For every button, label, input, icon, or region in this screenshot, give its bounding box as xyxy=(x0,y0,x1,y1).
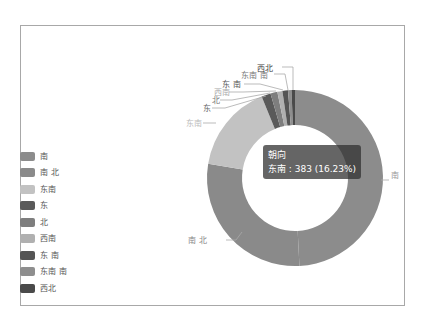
donut-slice[interactable] xyxy=(207,164,299,266)
legend-label: 东 xyxy=(40,201,48,210)
legend-swatch xyxy=(20,152,35,161)
legend-swatch xyxy=(20,201,35,210)
legend-swatch xyxy=(20,284,35,293)
tooltip-title: 朝向 xyxy=(268,148,356,162)
legend-item-southwest[interactable]: 西南 xyxy=(20,231,67,248)
slice-label: 东 xyxy=(203,103,211,113)
legend-label: 西南 xyxy=(40,234,56,243)
legend-item-north[interactable]: 北 xyxy=(20,214,67,231)
slice-label: 东南 xyxy=(186,118,202,128)
legend-item-south[interactable]: 南 xyxy=(20,148,67,165)
legend-swatch xyxy=(20,234,35,243)
legend-item-east[interactable]: 东 xyxy=(20,198,67,215)
legend-label: 南 xyxy=(40,152,48,161)
label-leader-line xyxy=(244,84,283,90)
legend-item-south-north[interactable]: 南 北 xyxy=(20,165,67,182)
legend-label: 西北 xyxy=(40,284,56,293)
legend-swatch xyxy=(20,218,35,227)
slice-label: 西北 xyxy=(257,64,273,73)
legend-swatch xyxy=(20,168,35,177)
legend-item-southeast-south[interactable]: 东南 南 xyxy=(20,264,67,281)
slice-label: 东 南 xyxy=(222,79,241,89)
legend-label: 北 xyxy=(40,218,48,227)
slice-label: 北 xyxy=(212,96,220,105)
label-leader-line xyxy=(274,74,288,90)
legend-label: 南 北 xyxy=(40,168,59,177)
legend-label: 东南 xyxy=(40,185,56,194)
slice-label: 南 xyxy=(391,170,399,180)
legend: 南 南 北 东南 东 北 西南 东 南 东南 南 西北 xyxy=(20,148,67,297)
legend-swatch xyxy=(20,251,35,260)
tooltip: 朝向 东南 : 383 (16.23%) xyxy=(263,145,361,179)
legend-swatch xyxy=(20,267,35,276)
legend-item-southeast[interactable]: 东南 xyxy=(20,181,67,198)
legend-label: 东 南 xyxy=(40,251,59,260)
legend-item-east-south[interactable]: 东 南 xyxy=(20,247,67,264)
slice-label: 南 北 xyxy=(188,235,207,245)
legend-swatch xyxy=(20,185,35,194)
legend-label: 东南 南 xyxy=(40,267,67,276)
label-leader-line xyxy=(229,91,276,92)
tooltip-value: 东南 : 383 (16.23%) xyxy=(268,162,356,176)
legend-item-northwest[interactable]: 西北 xyxy=(20,280,67,297)
